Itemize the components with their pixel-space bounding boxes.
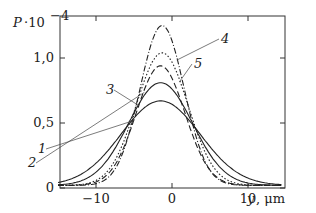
y-tick-label: 0,5 xyxy=(33,115,54,130)
x-axis-label-unit: , μm xyxy=(256,191,285,206)
x-tick-label: 0 xyxy=(168,191,176,206)
curve-1 xyxy=(58,101,281,185)
y-axis-label-exp: −4 xyxy=(50,8,69,23)
curve-5 xyxy=(58,53,281,186)
x-axis-label-var: y xyxy=(246,191,255,206)
y-axis-label-mult: ·10 xyxy=(24,15,45,30)
callouts: 12345 xyxy=(27,31,229,170)
y-tick-label: 0 xyxy=(46,180,54,195)
curve-label-4: 4 xyxy=(220,31,229,46)
y-tick-label: 1,0 xyxy=(33,50,54,65)
curve-label-1: 1 xyxy=(38,141,46,156)
curves xyxy=(58,26,281,186)
curve-4 xyxy=(58,26,281,186)
x-tick-label: −10 xyxy=(82,191,109,206)
curve-label-5: 5 xyxy=(194,56,202,71)
curve-label-2: 2 xyxy=(27,155,36,170)
y-axis-label-base: P xyxy=(12,15,22,30)
curve-label-3: 3 xyxy=(106,82,114,97)
chart: −1001000,51,0 12345 P ·10 −4 y , μm xyxy=(0,0,316,213)
